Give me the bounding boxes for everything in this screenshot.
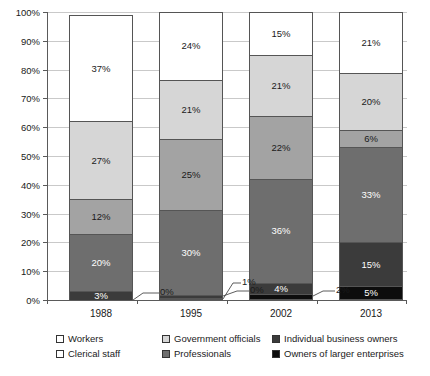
plot-area: 100% 90% 80% 70% 60% 50% 40% 30% 20% 10%… xyxy=(47,12,407,300)
bar-group-1988: 3% 20% 12% 27% 37% xyxy=(69,12,133,300)
segment-professionals[interactable]: 20% xyxy=(69,234,133,292)
bar-stack-2002: 4% 36% 22% 21% 15% xyxy=(249,12,313,300)
segment-value-label: 21% xyxy=(271,81,290,91)
legend-label: Individual business owners xyxy=(284,334,398,344)
ytick-label-20: 20% xyxy=(21,238,40,248)
segment-value-label: 36% xyxy=(271,226,290,236)
legend-label: Owners of larger enterprises xyxy=(284,349,404,359)
segment-value-label: 6% xyxy=(364,134,378,144)
segment-professionals[interactable]: 33% xyxy=(339,147,403,242)
segment-value-label: 30% xyxy=(181,248,200,258)
ytick-label-80: 80% xyxy=(21,66,40,76)
segment-workers[interactable]: 15% xyxy=(249,12,313,55)
segment-value-label: 24% xyxy=(181,41,200,51)
xtick-mark-2 xyxy=(227,300,228,304)
legend-swatch-icon xyxy=(272,335,280,343)
legend-label: Government officials xyxy=(174,334,260,344)
segment-professionals[interactable]: 30% xyxy=(159,210,223,295)
segment-value-label: 33% xyxy=(361,190,380,200)
ytick-label-50: 50% xyxy=(21,152,40,162)
segment-workers[interactable]: 21% xyxy=(339,12,403,72)
legend-swatch-icon xyxy=(56,350,64,358)
segment-value-label: 20% xyxy=(361,97,380,107)
legend-item-individual-business-owners[interactable]: Individual business owners xyxy=(272,331,408,346)
xtick-mark-4 xyxy=(406,300,407,304)
y-axis-line xyxy=(47,12,48,300)
bar-group-1995: 30% 25% 21% 24% xyxy=(159,12,223,300)
legend-item-clerical-staff[interactable]: Clerical staff xyxy=(56,346,162,361)
segment-clerical-staff[interactable]: 25% xyxy=(159,139,223,210)
callout-2002-owners: 2% xyxy=(336,285,350,295)
xtick-label-2002: 2002 xyxy=(249,308,313,319)
bar-stack-2013: 5% 15% 33% 6% 20% 21% xyxy=(339,12,403,300)
bars-layer: 3% 20% 12% 27% 37% xyxy=(47,12,407,300)
legend-label: Workers xyxy=(68,334,103,344)
segment-value-label: 22% xyxy=(271,143,290,153)
xtick-label-1988: 1988 xyxy=(69,308,133,319)
segment-government-officials[interactable]: 21% xyxy=(249,55,313,115)
legend-item-workers[interactable]: Workers xyxy=(56,331,162,346)
legend-swatch-icon xyxy=(272,350,280,358)
legend-item-professionals[interactable]: Professionals xyxy=(162,346,272,361)
segment-government-officials[interactable]: 27% xyxy=(69,121,133,199)
legend-item-government-officials[interactable]: Government officials xyxy=(162,331,272,346)
segment-value-label: 12% xyxy=(91,212,110,222)
callout-1995-owners: 0% xyxy=(250,285,264,295)
legend-item-owners-of-larger-enterprises[interactable]: Owners of larger enterprises xyxy=(272,346,408,361)
ytick-label-30: 30% xyxy=(21,210,40,220)
segment-clerical-staff[interactable]: 12% xyxy=(69,199,133,234)
ytick-label-60: 60% xyxy=(21,123,40,133)
segment-workers[interactable]: 37% xyxy=(69,15,133,122)
xtick-mark-3 xyxy=(317,300,318,304)
legend: Workers Government officials Individual … xyxy=(56,331,408,361)
callout-1988-owners: 0% xyxy=(160,287,174,297)
ytick-label-10: 10% xyxy=(21,267,40,277)
segment-government-officials[interactable]: 21% xyxy=(159,80,223,139)
segment-value-label: 21% xyxy=(361,38,380,48)
segment-value-label: 37% xyxy=(91,64,110,74)
xtick-label-2013: 2013 xyxy=(339,308,403,319)
ytick-label-90: 90% xyxy=(21,37,40,47)
legend-label: Clerical staff xyxy=(68,349,120,359)
ytick-label-40: 40% xyxy=(21,181,40,191)
segment-individual-business-owners[interactable]: 15% xyxy=(339,242,403,285)
ytick-label-0: 0% xyxy=(26,296,40,306)
segment-value-label: 25% xyxy=(181,170,200,180)
ytick-label-70: 70% xyxy=(21,94,40,104)
bar-group-2013: 5% 15% 33% 6% 20% 21% xyxy=(339,12,403,300)
segment-value-label: 21% xyxy=(181,105,200,115)
segment-value-label: 27% xyxy=(91,156,110,166)
legend-swatch-icon xyxy=(162,335,170,343)
segment-government-officials[interactable]: 20% xyxy=(339,73,403,131)
segment-professionals[interactable]: 36% xyxy=(249,179,313,283)
segment-value-label: 15% xyxy=(271,29,290,39)
segment-value-label: 4% xyxy=(274,284,288,294)
xtick-mark-0 xyxy=(47,300,48,304)
ytick-label-100: 100% xyxy=(16,8,40,18)
segment-clerical-staff[interactable]: 6% xyxy=(339,130,403,147)
xtick-mark-1 xyxy=(137,300,138,304)
segment-clerical-staff[interactable]: 22% xyxy=(249,116,313,179)
legend-label: Professionals xyxy=(174,349,231,359)
legend-swatch-icon xyxy=(56,335,64,343)
bar-stack-1995: 30% 25% 21% 24% xyxy=(159,12,223,300)
segment-workers[interactable]: 24% xyxy=(159,12,223,80)
segment-individual-business-owners[interactable]: 3% xyxy=(69,291,133,300)
segment-value-label: 5% xyxy=(364,288,378,298)
bar-group-2002: 4% 36% 22% 21% 15% xyxy=(249,12,313,300)
bar-stack-1988: 3% 20% 12% 27% 37% xyxy=(69,12,133,300)
xtick-label-1995: 1995 xyxy=(159,308,223,319)
segment-value-label: 20% xyxy=(91,258,110,268)
segment-value-label: 15% xyxy=(361,260,380,270)
stacked-bar-chart: 100% 90% 80% 70% 60% 50% 40% 30% 20% 10%… xyxy=(0,0,430,376)
legend-swatch-icon xyxy=(162,350,170,358)
